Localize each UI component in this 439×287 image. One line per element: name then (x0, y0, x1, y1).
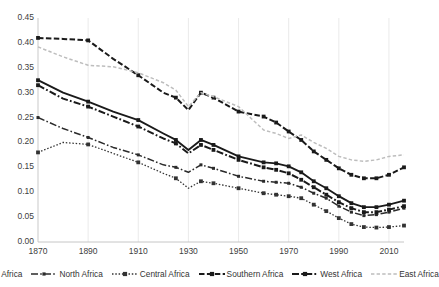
data-point-marker (337, 205, 340, 208)
data-point-marker (237, 175, 240, 178)
data-point-marker (337, 216, 341, 220)
data-point-marker (174, 166, 177, 169)
legend-item-west-africa[interactable]: West Africa (292, 269, 362, 279)
data-point-marker (387, 173, 391, 177)
legend-label: Southern Africa (227, 270, 284, 278)
data-point-marker (402, 224, 406, 228)
data-point-marker (174, 96, 178, 100)
data-point-marker (362, 176, 366, 180)
data-point-marker (402, 204, 406, 208)
data-point-marker (237, 110, 241, 114)
data-point-marker (299, 170, 303, 174)
data-point-marker (324, 209, 328, 213)
data-point-marker (137, 153, 140, 156)
legend-label: Africa (1, 270, 22, 278)
legend-marker (303, 272, 307, 276)
y-tick-0.15: 0.15 (2, 161, 34, 171)
legend-swatch-east-africa (371, 269, 397, 279)
data-point-marker (287, 182, 290, 185)
data-point-marker (262, 165, 266, 169)
y-tick-0.35: 0.35 (2, 62, 34, 72)
legend-swatch-west-africa (292, 269, 318, 279)
data-point-marker (136, 160, 140, 164)
data-point-marker (349, 173, 353, 177)
data-point-marker (199, 143, 203, 147)
data-point-marker (312, 192, 315, 195)
y-tick-0.10: 0.10 (2, 186, 34, 196)
legend-item-africa[interactable]: Africa (0, 269, 22, 279)
data-point-marker (274, 161, 278, 165)
data-point-marker (299, 196, 303, 200)
chart-legend: AfricaNorth AfricaCentral AfricaSouthern… (0, 264, 412, 284)
data-point-marker (174, 176, 178, 180)
legend-marker (123, 272, 127, 276)
data-point-marker (275, 181, 278, 184)
legend-swatch-southern-africa (199, 269, 225, 279)
data-point-marker (86, 105, 90, 109)
legend-item-north-africa[interactable]: North Africa (31, 269, 102, 279)
legend-label: North Africa (59, 270, 102, 278)
data-point-marker (375, 205, 379, 209)
data-point-marker (274, 193, 278, 197)
data-point-marker (212, 148, 216, 152)
legend-label: East Africa (399, 270, 439, 278)
x-tick-1910: 1910 (118, 246, 158, 256)
x-tick-1890: 1890 (68, 246, 108, 256)
data-point-marker (174, 142, 178, 146)
legend-item-central-africa[interactable]: Central Africa (112, 269, 190, 279)
data-point-marker (86, 100, 90, 104)
data-point-marker (87, 136, 90, 139)
y-tick-0.40: 0.40 (2, 37, 34, 47)
data-point-marker (300, 186, 303, 189)
data-point-marker (312, 150, 316, 154)
data-point-marker (324, 186, 328, 190)
data-point-marker (312, 179, 316, 183)
data-point-marker (299, 138, 303, 142)
data-point-marker (237, 154, 241, 158)
data-point-marker (174, 138, 178, 142)
legend-marker (43, 272, 46, 275)
data-point-marker (287, 171, 291, 175)
legend-label: West Africa (320, 270, 362, 278)
legend-swatch-central-africa (112, 269, 138, 279)
legend-label: Central Africa (140, 270, 190, 278)
data-point-marker (362, 205, 366, 209)
data-point-marker (199, 179, 203, 183)
data-point-marker (36, 78, 40, 82)
data-point-marker (299, 178, 303, 182)
data-point-marker (287, 164, 291, 168)
data-point-marker (350, 211, 353, 214)
data-point-marker (237, 186, 241, 190)
legend-item-southern-africa[interactable]: Southern Africa (199, 269, 284, 279)
x-tick-1990: 1990 (319, 246, 359, 256)
data-point-marker (402, 199, 406, 203)
data-point-marker (262, 191, 266, 195)
data-point-marker (402, 165, 406, 169)
data-point-marker (136, 125, 140, 129)
data-point-marker (387, 225, 391, 229)
data-point-marker (237, 158, 241, 162)
legend-item-east-africa[interactable]: East Africa (371, 269, 439, 279)
data-point-marker (375, 176, 379, 180)
legend-swatch-north-africa (31, 269, 57, 279)
y-tick-0.25: 0.25 (2, 112, 34, 122)
data-point-marker (362, 214, 365, 217)
data-point-marker (86, 39, 90, 43)
data-point-marker (337, 194, 341, 198)
y-tick-0.45: 0.45 (2, 12, 34, 22)
data-point-marker (375, 226, 379, 230)
x-tick-1870: 1870 (18, 246, 58, 256)
data-point-marker (212, 181, 216, 185)
data-point-marker (37, 116, 40, 119)
data-point-marker (387, 208, 391, 212)
data-point-marker (349, 222, 353, 226)
x-tick-2010: 2010 (369, 246, 409, 256)
data-point-marker (262, 115, 266, 119)
data-point-marker (36, 36, 40, 40)
data-point-marker (349, 201, 353, 205)
data-point-marker (312, 203, 316, 207)
x-tick-1930: 1930 (168, 246, 208, 256)
plot-background (38, 18, 404, 242)
data-point-marker (375, 210, 379, 214)
